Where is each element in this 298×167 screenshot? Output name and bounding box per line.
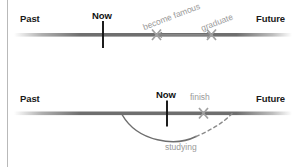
event-span-arrow-top xyxy=(158,32,212,37)
future-label-bottom: Future xyxy=(256,93,285,104)
future-label-top: Future xyxy=(256,13,285,24)
panel-future-events: Past Future Now become famous graduate xyxy=(0,0,298,84)
panel-future-continuous: Past Future Now finish studying xyxy=(0,84,298,167)
past-label-bottom: Past xyxy=(20,93,40,104)
timeline-graphic-top xyxy=(0,0,298,84)
now-label-bottom: Now xyxy=(156,89,176,100)
timeline-axis-top xyxy=(14,33,292,37)
past-label-top: Past xyxy=(20,13,40,24)
activity-label-studying: studying xyxy=(165,142,197,152)
timeline-figure: Past Future Now become famous graduate xyxy=(0,0,298,167)
timeline-axis-bottom xyxy=(14,112,292,116)
event-label-finish: finish xyxy=(190,92,210,102)
timeline-graphic-bottom xyxy=(0,84,298,167)
activity-arc-solid xyxy=(122,115,196,142)
now-label-top: Now xyxy=(92,10,112,21)
